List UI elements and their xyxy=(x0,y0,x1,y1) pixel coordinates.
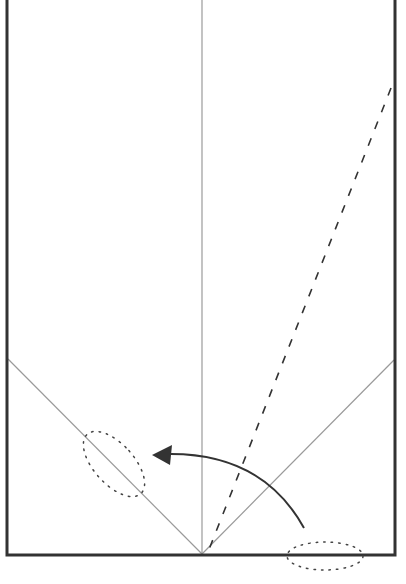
target-markers xyxy=(72,421,363,570)
paper-outline xyxy=(7,0,395,555)
right-diagonal-crease xyxy=(202,360,394,554)
crease-lines xyxy=(8,0,394,555)
left-diagonal-crease xyxy=(8,359,202,554)
origami-diagram xyxy=(0,0,406,584)
fold-arrow-icon xyxy=(152,445,304,528)
valley-fold-line xyxy=(208,88,391,552)
